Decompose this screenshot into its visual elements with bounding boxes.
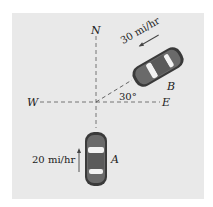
- car-b-icon: [129, 44, 187, 90]
- north-label: N: [91, 25, 101, 36]
- car-a-speed: 20 mi/hr: [32, 155, 75, 165]
- east-label: E: [162, 97, 170, 108]
- car-a-velocity-arrow: [77, 148, 81, 172]
- car-a-label: A: [111, 154, 119, 165]
- car-b-label: B: [167, 81, 175, 92]
- west-label: W: [27, 97, 38, 108]
- angle-label: 30°: [119, 92, 137, 102]
- car-a-icon: [85, 132, 107, 186]
